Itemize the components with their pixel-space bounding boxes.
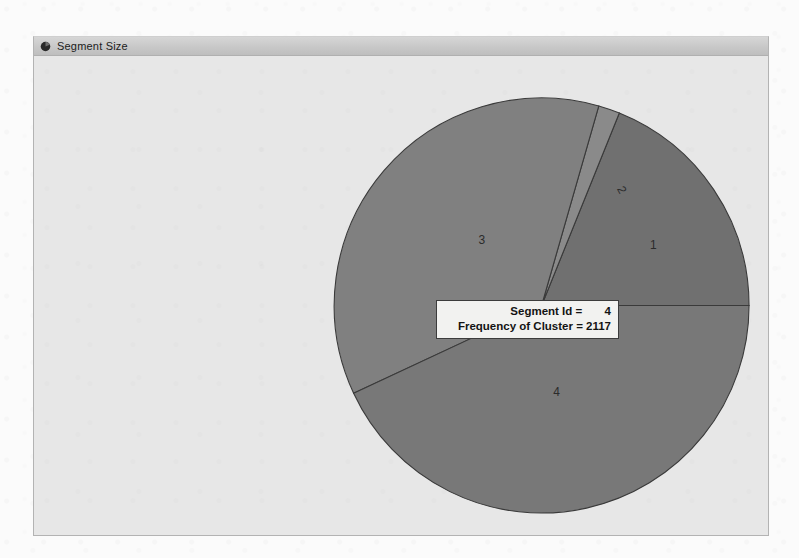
window-title-label: Segment Size (57, 41, 128, 52)
chart-client-area: 1234 Segment Id = 4 Frequency of Cluster… (34, 56, 768, 535)
data-tooltip: Segment Id = 4 Frequency of Cluster = 21… (436, 300, 619, 339)
pie-slice-label-4: 4 (553, 385, 560, 399)
window-title-bar[interactable]: Segment Size (34, 37, 768, 56)
segment-size-window: Segment Size 1234 Segment Id = 4 Frequen… (33, 36, 769, 536)
pie-chart[interactable]: 1234 (34, 56, 768, 535)
tooltip-segment-id: Segment Id = 4 (444, 304, 611, 319)
pie-chart-icon (40, 41, 51, 52)
pie-slice-label-3: 3 (478, 233, 485, 247)
pie-slice-label-1: 1 (650, 238, 657, 252)
tooltip-frequency: Frequency of Cluster = 2117 (444, 319, 611, 334)
